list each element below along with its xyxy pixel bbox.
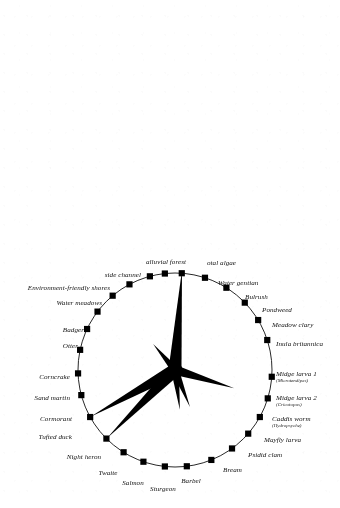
node-marker-caddis-worm [257,414,263,420]
node-label-salmon: Salmon [122,479,144,487]
node-marker-water-gentian [202,275,208,281]
node-label-tufted-duck: Tufted duck [39,433,72,441]
node-label-psidid-clam: Psidid clam [248,451,282,459]
node-marker-cormorant [78,392,84,398]
node-label-bream: Bream [223,466,242,474]
node-label-total-algae: otal algae [207,259,236,267]
node-marker-water-meadows [110,293,116,299]
node-marker-sand-martin [75,370,81,376]
node-label-barbel: Barbel [181,477,201,485]
node-marker-mayfly-larva [245,431,251,437]
node-marker-otter [84,326,90,332]
node-marker-alluvial [162,270,168,276]
node-marker-bream [208,457,214,463]
node-marker-env-shores [126,281,132,287]
node-marker-barbel [184,463,190,469]
node-label-env-shores: Environment-friendly shores [28,284,110,292]
node-marker-twaite [121,449,127,455]
node-label-side-channel: side channel [105,271,141,279]
node-marker-badger [94,309,100,315]
node-marker-inula [264,337,270,343]
node-label-cormorant: Cormorant [40,415,72,423]
radial-star-plot [0,0,340,508]
node-label-sturgeon: Sturgeon [150,485,176,493]
node-label-meadow-clary: Meadow clary [272,321,313,329]
node-sublabel-midge-2: (Cricotopus) [276,402,317,408]
node-marker-meadow-clary [255,317,261,323]
node-label-badger: Badger [63,326,84,334]
node-marker-salmon [140,459,146,465]
node-marker-tufted-duck [87,414,93,420]
node-label-otter: Otter [63,342,78,350]
node-label-mayfly-larva: Mayfly larva [264,436,301,444]
node-marker-side-channel [147,273,153,279]
node-label-twaite: Twaite [98,469,117,477]
node-marker-total-algae [179,270,185,276]
node-label-midge-1: Midge larva 1(Microtendipes) [276,370,317,384]
node-label-alluvial: alluvial forest [146,258,186,266]
node-label-pondweed: Pondweed [262,306,292,314]
node-label-water-gentian: Water gentian [218,279,258,287]
node-marker-psidid-clam [229,445,235,451]
node-label-night-heron: Night heron [67,453,101,461]
node-marker-night-heron [103,435,109,441]
spike-total-algae [169,270,182,370]
node-sublabel-midge-1: (Microtendipes) [276,378,317,384]
node-marker-midge-2 [265,395,271,401]
node-label-sand-martin: Sand martin [35,394,70,402]
spike-hub [168,363,183,378]
node-label-caddis-worm: Caddis worm(Hydropsyche) [272,415,311,429]
node-sublabel-caddis-worm: (Hydropsyche) [272,423,311,429]
node-label-bulrush: Bulrush [245,293,268,301]
node-label-midge-2: Midge larva 2(Cricotopus) [276,394,317,408]
node-label-inula: Inula britannica [276,340,323,348]
node-label-water-meadows: Water meadows [56,299,102,307]
node-marker-midge-1 [269,374,275,380]
node-label-corncrake: Corncrake [39,373,70,381]
node-marker-sturgeon [162,463,168,469]
